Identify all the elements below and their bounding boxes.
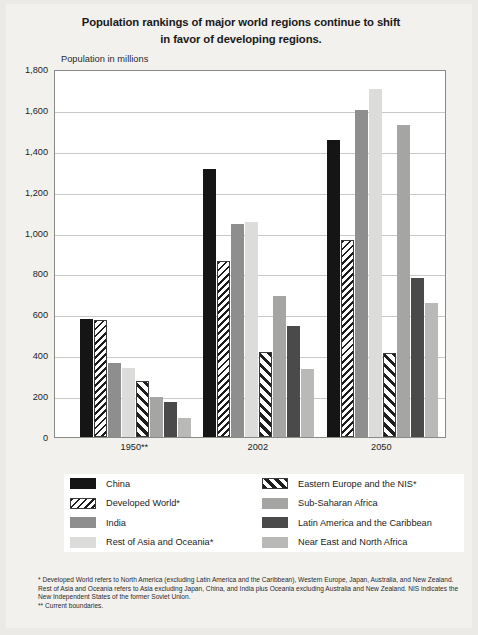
legend-item-restasia: Rest of Asia and Oceania* <box>64 533 256 553</box>
chart-legend: ChinaEastern Europe and the NIS*Develope… <box>64 474 464 552</box>
title-line-2: in favor of developing regions. <box>36 31 446 48</box>
legend-swatch-icon <box>262 517 288 528</box>
y-axis-tick-label: 200 <box>8 392 48 402</box>
footnotes: * Developed World refers to North Americ… <box>38 576 468 611</box>
footnote-1: * Developed World refers to North Americ… <box>38 576 468 602</box>
y-axis-title: Population in millions <box>61 54 148 64</box>
legend-item-label: Near East and North Africa <box>298 537 407 547</box>
x-axis-tick-label: 1950** <box>94 442 174 452</box>
y-axis-tick-label: 1,400 <box>8 147 48 157</box>
legend-item-dev: Developed World* <box>64 494 256 514</box>
footnote-2: ** Current boundaries. <box>38 602 468 611</box>
y-axis-tick-label: 1,800 <box>8 65 48 75</box>
x-axis-tick-label: 2050 <box>341 442 421 452</box>
legend-item-latam: Latin America and the Caribbean <box>256 513 464 533</box>
x-axis-tick-labels: 1950**20022050 <box>54 442 446 460</box>
legend-swatch-icon <box>70 517 96 528</box>
y-axis-tick-label: 1,600 <box>8 106 48 116</box>
legend-swatch-icon <box>262 478 288 489</box>
legend-swatch-icon <box>70 537 96 548</box>
legend-item-label: China <box>106 479 130 489</box>
legend-item-label: India <box>106 518 126 528</box>
legend-item-label: Eastern Europe and the NIS* <box>298 479 417 489</box>
y-axis-tick-label: 400 <box>8 351 48 361</box>
legend-swatch-icon <box>70 498 96 509</box>
legend-item-ee: Eastern Europe and the NIS* <box>256 474 464 494</box>
legend-item-ssa: Sub-Saharan Africa <box>256 494 464 514</box>
legend-item-nena: Near East and North Africa <box>256 533 464 553</box>
legend-item-china: China <box>64 474 256 494</box>
x-axis-tick-label: 2002 <box>218 442 298 452</box>
y-axis-tick-label: 1,200 <box>8 188 48 198</box>
legend-item-label: Latin America and the Caribbean <box>298 518 432 528</box>
y-axis-tick-label: 800 <box>8 269 48 279</box>
y-axis-tick-label: 0 <box>8 433 48 443</box>
legend-swatch-icon <box>70 478 96 489</box>
legend-swatch-icon <box>262 498 288 509</box>
page-title: Population rankings of major world regio… <box>36 14 446 48</box>
legend-item-label: Sub-Saharan Africa <box>298 498 378 508</box>
legend-swatch-icon <box>262 537 288 548</box>
legend-item-india: India <box>64 513 256 533</box>
y-axis-tick-labels: 02004006008001,0001,2001,4001,6001,800 <box>6 70 478 438</box>
y-axis-tick-label: 1,000 <box>8 229 48 239</box>
chart-sheet: Population rankings of major world regio… <box>6 4 472 628</box>
legend-item-label: Developed World* <box>106 498 180 508</box>
title-line-1: Population rankings of major world regio… <box>82 16 400 28</box>
chart-page: Population rankings of major world regio… <box>0 0 478 635</box>
y-axis-tick-label: 600 <box>8 310 48 320</box>
legend-item-label: Rest of Asia and Oceania* <box>106 537 213 547</box>
